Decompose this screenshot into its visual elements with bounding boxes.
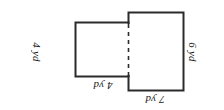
figure-rotator: 6 yd 7 yd 4 yd 4 yd [0,0,224,110]
large-rectangle-outline [129,13,184,91]
label-large-top: 7 yd [138,94,172,106]
label-left-side: 4 yd [31,35,43,69]
label-right-side: 6 yd [187,35,199,69]
label-small-top: 4 yd [86,80,120,92]
composite-rectangle-figure: 6 yd 7 yd 4 yd 4 yd [0,0,224,110]
small-rectangle-outline [76,23,129,77]
